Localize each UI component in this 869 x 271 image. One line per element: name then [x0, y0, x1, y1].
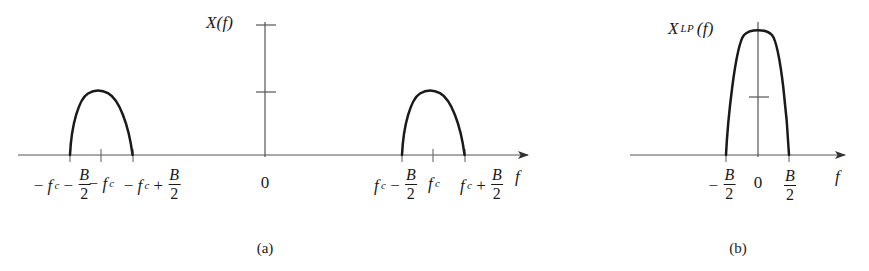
panel-a-y-axis-label: X(f): [206, 14, 233, 31]
panel-a-tick-label-neg-fc: − f c: [88, 175, 115, 192]
panel-a-tick-label-fc-plus-b2: f c + B 2: [460, 168, 504, 203]
panel-b-plot: [620, 0, 869, 271]
panel-a-tick-label-fc-minus-b2: f c − B 2: [374, 168, 418, 203]
figure-container: X(f) f − f c − B 2 − f: [0, 0, 869, 271]
panel-b-tick-label-origin: 0: [754, 174, 763, 191]
panel-b-tick-label-pos-b2: B 2: [783, 168, 797, 204]
panel-a-lobe-positive: [402, 91, 465, 155]
panel-a-tick-label-neg-fc-plus-b2: − f c + B 2: [123, 168, 182, 203]
panel-a-y-axis-label-text: X(f): [206, 14, 233, 31]
panel-a-tick-label-fc: f c: [428, 175, 440, 192]
panel-a-x-axis-label: f: [515, 168, 520, 185]
panel-a-lobe-negative: [70, 91, 133, 155]
panel-b-y-axis-label: X LP (f): [668, 20, 714, 37]
panel-b-x-axis-label: f: [835, 168, 840, 185]
panel-b: X LP (f) f − B 2 0: [620, 0, 869, 271]
panel-a-caption: (a): [257, 240, 274, 257]
panel-a: X(f) f − f c − B 2 − f: [0, 0, 560, 271]
panel-b-caption: (b): [729, 240, 747, 257]
panel-a-plot: [0, 0, 560, 271]
panel-a-tick-label-origin: 0: [261, 174, 270, 191]
panel-a-tick-label-neg-fc-minus-b2: − f c − B 2: [33, 168, 92, 203]
panel-b-tick-label-neg-b2: − B 2: [708, 168, 737, 203]
